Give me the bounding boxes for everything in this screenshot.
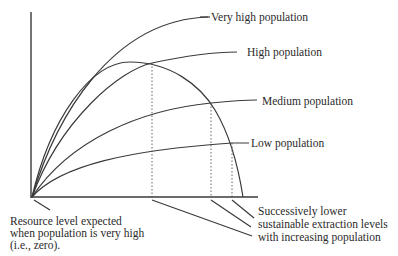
- resource-population-diagram: Very high population High population Med…: [0, 0, 398, 256]
- pointer-low: [232, 200, 254, 218]
- annotation-left-line3: (i.e., zero).: [10, 239, 60, 252]
- annotation-right-line1: Successively lower: [258, 205, 347, 218]
- annotation-right-line2: sustainable extraction levels: [258, 218, 388, 230]
- label-high-population: High population: [247, 46, 322, 59]
- curve-medium-population: [32, 100, 257, 197]
- label-medium-population: Medium population: [262, 95, 353, 108]
- pointer-origin: [34, 200, 50, 210]
- annotation-right-line3: with increasing population: [258, 231, 381, 244]
- label-low-population: Low population: [251, 137, 324, 150]
- curve-low-population: [32, 143, 249, 197]
- label-very-high-population: Very high population: [211, 11, 308, 24]
